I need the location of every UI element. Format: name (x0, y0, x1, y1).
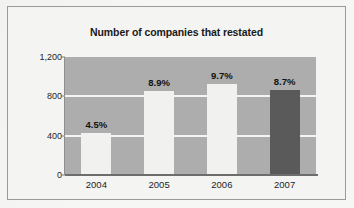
plot-inner (65, 57, 316, 175)
bar-2005[interactable] (144, 91, 174, 175)
plot-area (65, 57, 316, 175)
x-tick-label-2007: 2007 (274, 179, 295, 190)
bar-2004[interactable] (81, 133, 111, 175)
x-tick-label-2004: 2004 (86, 179, 107, 190)
bar-2006[interactable] (207, 84, 237, 175)
bar-2007[interactable] (270, 90, 300, 175)
x-axis-line (65, 174, 318, 176)
chart-title: Number of companies that restated (8, 26, 345, 38)
y-tick-label: 400 (14, 131, 62, 141)
bar-value-label-2005: 8.9% (148, 77, 170, 88)
y-tick-label: 800 (14, 91, 62, 101)
bar-value-label-2004: 4.5% (86, 119, 108, 130)
y-tick-label: 0 (14, 170, 62, 180)
chart-frame: Number of companies that restated 040080… (7, 6, 346, 200)
chart-screenshot: Number of companies that restated 040080… (0, 0, 354, 208)
bar-value-label-2007: 8.7% (274, 76, 296, 87)
x-tick-label-2005: 2005 (149, 179, 170, 190)
y-axis: 04008001,200 (10, 57, 62, 175)
x-tick-label-2006: 2006 (211, 179, 232, 190)
y-tick-label: 1,200 (14, 52, 62, 62)
bar-value-label-2006: 9.7% (211, 70, 233, 81)
